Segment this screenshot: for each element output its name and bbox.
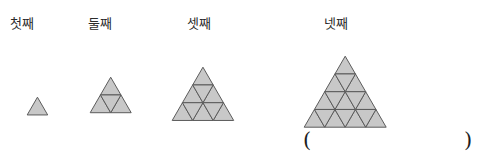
small-triangle-up [100, 77, 120, 95]
figure-sequence-page: 첫째 둘째 셋째 넷째 ( ) [0, 0, 488, 163]
triangle-figure-fourth [303, 55, 387, 128]
figure-label-fourth: 넷째 [324, 16, 348, 32]
triangle-figure-second [89, 76, 132, 114]
small-triangle-up [27, 97, 47, 115]
triangle-figure-first [26, 96, 49, 116]
small-triangle-up [193, 67, 213, 85]
answer-close-paren: ) [464, 130, 472, 151]
small-triangle-up [335, 56, 355, 74]
figure-label-second: 둘째 [88, 16, 112, 32]
figure-label-first: 첫째 [10, 16, 34, 32]
figure-label-third: 셋째 [187, 16, 211, 32]
triangle-figure-third [171, 66, 235, 122]
answer-open-paren: ( [303, 130, 311, 151]
